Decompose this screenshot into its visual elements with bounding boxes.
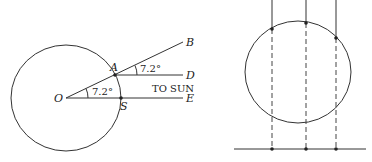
intersection-dot-2	[304, 21, 308, 25]
label-S: S	[120, 100, 128, 113]
label-D: D	[185, 69, 195, 82]
intersection-dot-3	[334, 36, 338, 40]
label-B: B	[185, 36, 194, 49]
baseline-dot-2	[304, 147, 308, 151]
left-diagram: O A S B D E 7.2° 7.2° TO SUN	[11, 36, 195, 151]
angle-label-O: 7.2°	[92, 86, 113, 97]
baseline-dot-1	[270, 147, 274, 151]
angle-arc-O	[86, 89, 88, 99]
angle-arc-A	[135, 66, 137, 76]
baseline-dot-3	[334, 147, 338, 151]
right-diagram	[234, 0, 366, 151]
diagram-canvas: O A S B D E 7.2° 7.2° TO SUN	[0, 0, 372, 162]
label-A: A	[109, 61, 118, 74]
right-circle	[245, 21, 351, 123]
label-O: O	[54, 92, 63, 105]
angle-label-A: 7.2°	[140, 63, 161, 74]
intersection-dot-1	[270, 27, 274, 31]
to-sun-label: TO SUN	[152, 83, 194, 94]
